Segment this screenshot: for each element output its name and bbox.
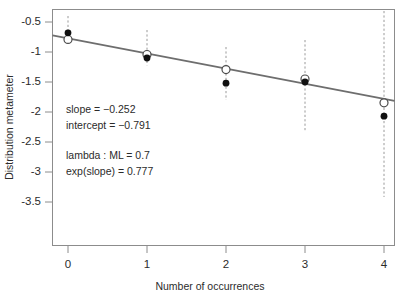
annotation-intercept: intercept = −0.791 xyxy=(66,119,151,131)
x-tick-label: 4 xyxy=(381,258,388,270)
y-tick-label: -0.5 xyxy=(21,15,41,27)
y-tick-label: -2.5 xyxy=(21,135,41,147)
y-tick-label: -3 xyxy=(31,165,41,177)
y-tick-label: -1.5 xyxy=(21,75,41,87)
x-tick-label: 1 xyxy=(144,258,150,270)
fitted-point xyxy=(64,35,72,43)
x-axis-title: Number of occurrences xyxy=(155,280,264,292)
scatter-plot-svg: -0.5 -1 -1.5 -2 -2.5 -3 -3.5 0 1 2 3 4 xyxy=(0,0,417,302)
y-tick-label: -2 xyxy=(31,105,41,117)
x-tick-label: 2 xyxy=(223,258,229,270)
observed-point xyxy=(302,79,309,86)
observed-point xyxy=(223,80,230,87)
fitted-point xyxy=(380,99,388,107)
observed-point xyxy=(144,55,151,62)
annotation-exp-slope: exp(slope) = 0.777 xyxy=(66,165,153,177)
observed-point xyxy=(381,113,388,120)
x-tick-label: 0 xyxy=(65,258,71,270)
annotation-lambda: lambda : ML = 0.7 xyxy=(66,149,150,161)
plot-background xyxy=(0,0,417,302)
y-tick-label: -1 xyxy=(31,45,41,57)
x-tick-label: 3 xyxy=(302,258,308,270)
y-axis-title: Distribution metameter xyxy=(3,74,15,180)
observed-point xyxy=(65,29,72,36)
fitted-point xyxy=(222,66,230,74)
chart-figure: -0.5 -1 -1.5 -2 -2.5 -3 -3.5 0 1 2 3 4 xyxy=(0,0,417,302)
annotation-slope: slope = −0.252 xyxy=(66,103,136,115)
y-tick-label: -3.5 xyxy=(21,195,41,207)
